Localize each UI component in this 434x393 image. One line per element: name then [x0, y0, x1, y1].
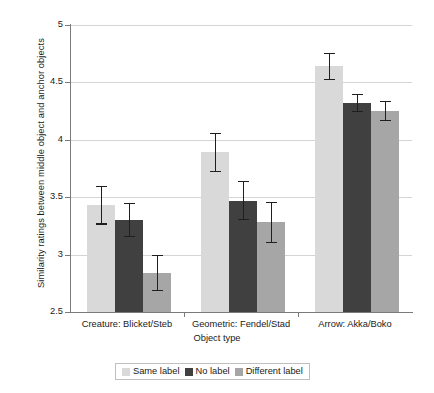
bar	[371, 111, 399, 312]
y-axis-tick-label: 4	[23, 134, 63, 144]
y-axis-tick	[65, 197, 70, 198]
y-axis-tick-label: 2.5	[23, 306, 63, 316]
bar	[343, 103, 371, 312]
x-axis-line	[70, 312, 413, 313]
bar	[201, 152, 229, 312]
legend-item: No label	[185, 367, 230, 376]
y-axis-tick	[65, 25, 70, 26]
x-axis-title: Object type	[0, 333, 434, 343]
x-axis-tick	[184, 312, 185, 317]
bar	[315, 66, 343, 312]
legend-label: No label	[196, 367, 230, 376]
y-axis-tick-label: 5	[23, 19, 63, 29]
error-bar	[266, 202, 277, 243]
legend-item: Same label	[122, 367, 180, 376]
legend-label: Same label	[133, 367, 180, 376]
legend-item: Different label	[235, 367, 303, 376]
y-axis-tick-label: 4.5	[23, 76, 63, 86]
legend-swatch	[185, 368, 193, 376]
y-axis-title: Similarity ratings between middle object…	[36, 18, 46, 308]
legend-swatch	[235, 368, 243, 376]
error-bar	[380, 101, 391, 122]
y-axis-tick	[65, 140, 70, 141]
y-axis-tick-label: 3.5	[23, 191, 63, 201]
chart-legend: Same labelNo labelDifferent label	[115, 363, 310, 380]
error-bar	[96, 186, 107, 225]
bars-layer	[70, 25, 412, 312]
error-bar	[124, 203, 135, 237]
error-bar	[324, 53, 335, 81]
y-axis-tick	[65, 82, 70, 83]
legend-label: Different label	[246, 367, 303, 376]
error-bar	[152, 255, 163, 292]
y-axis-tick-label: 3	[23, 249, 63, 259]
error-bar	[210, 133, 221, 172]
error-bar	[352, 94, 363, 112]
x-axis-category-label: Arrow: Akka/Boko	[283, 319, 427, 329]
y-axis-tick	[65, 255, 70, 256]
error-bar	[238, 181, 249, 220]
y-axis-tick	[65, 312, 70, 313]
legend-swatch	[122, 368, 130, 376]
bar-chart: Similarity ratings between middle object…	[0, 0, 434, 393]
x-axis-tick	[298, 312, 299, 317]
